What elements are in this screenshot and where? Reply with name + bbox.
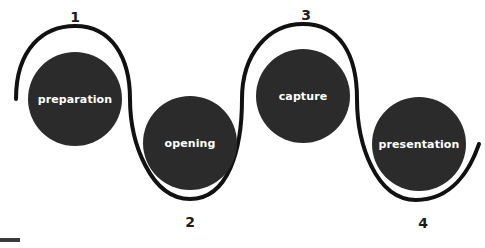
nodes-layer [0,0,485,248]
step-number-2: 2 [185,215,195,229]
process-flow-diagram: preparation opening capture presentation… [0,0,485,248]
node-circle-presentation[interactable] [372,97,466,191]
node-circle-preparation[interactable] [28,52,122,146]
step-number-4: 4 [418,216,428,230]
step-number-3: 3 [301,8,311,22]
step-number-1: 1 [70,10,80,24]
node-circle-opening[interactable] [143,96,237,190]
node-circle-capture[interactable] [256,49,350,143]
corner-crop-mark [0,238,20,242]
